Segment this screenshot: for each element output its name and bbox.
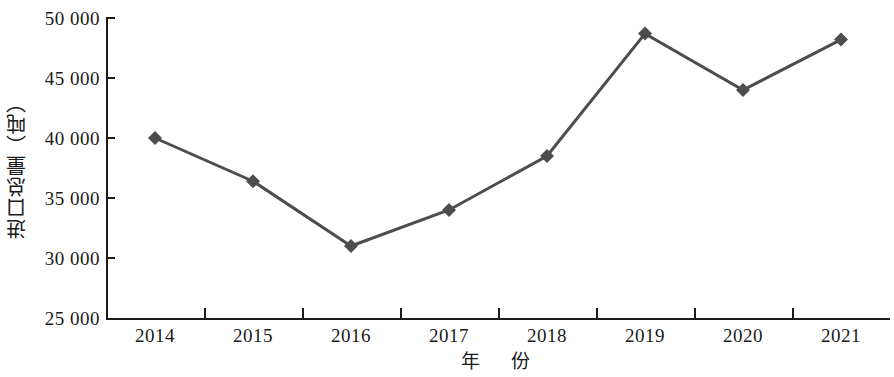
x-axis-title-label: 年 份 bbox=[461, 351, 536, 372]
x-axis-tick-label: 2018 bbox=[498, 326, 596, 347]
y-axis-tick-label: 45 000 bbox=[4, 69, 100, 88]
x-axis-tick-label: 2014 bbox=[106, 326, 204, 347]
plot-area bbox=[106, 18, 890, 318]
data-series-svg bbox=[106, 18, 890, 318]
y-axis-tick-label: 25 000 bbox=[4, 309, 100, 328]
data-point-marker bbox=[442, 203, 456, 217]
y-axis-tick-label: 30 000 bbox=[4, 249, 100, 268]
data-line bbox=[155, 34, 841, 246]
y-axis-tick-label: 40 000 bbox=[4, 129, 100, 148]
x-axis-title: 年 份 bbox=[106, 352, 890, 371]
x-axis-tick-label: 2020 bbox=[694, 326, 792, 347]
y-axis-tick-label: 35 000 bbox=[4, 189, 100, 208]
y-axis-tick-label: 50 000 bbox=[4, 9, 100, 28]
data-point-marker bbox=[148, 131, 162, 145]
x-axis-tick-label: 2019 bbox=[596, 326, 694, 347]
y-axis-tick-labels: 25 00030 00035 00040 00045 00050 000 bbox=[0, 0, 100, 377]
x-axis-tick-label: 2016 bbox=[302, 326, 400, 347]
data-point-marker bbox=[736, 83, 750, 97]
x-axis-tick-label: 2021 bbox=[792, 326, 890, 347]
line-chart: 进口总量（吨） 25 00030 00035 00040 00045 00050… bbox=[0, 0, 894, 377]
data-point-marker bbox=[834, 33, 848, 47]
x-axis-tick-label: 2017 bbox=[400, 326, 498, 347]
x-axis-tick-labels: 20142015201620172018201920202021 bbox=[106, 326, 890, 352]
x-axis-tick-label: 2015 bbox=[204, 326, 302, 347]
